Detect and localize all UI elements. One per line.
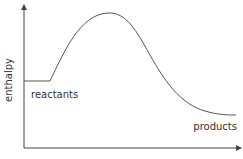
products-label: products: [193, 121, 237, 132]
y-axis-label: enthalpy: [3, 58, 14, 102]
energy-diagram: enthalpy reactants products: [0, 0, 243, 159]
reactants-label: reactants: [31, 89, 78, 100]
